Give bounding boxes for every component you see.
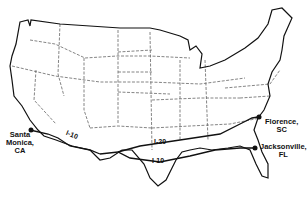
florence-marker <box>257 115 262 120</box>
jacksonville-marker <box>253 146 258 151</box>
route-label-i10-south: I-10 <box>152 157 164 164</box>
city-label-line: SC <box>265 126 298 134</box>
city-label-line: CA <box>6 147 34 155</box>
city-label-jacksonville: Jacksonville, FL <box>260 143 307 159</box>
route-label-i20: I-20 <box>154 138 166 145</box>
city-label-santa-monica: Santa Monica, CA <box>6 131 34 155</box>
routes <box>30 117 258 162</box>
city-label-florence: Florence, SC <box>265 118 298 134</box>
state-borders <box>12 24 280 150</box>
us-map <box>0 0 308 200</box>
city-label-line: FL <box>260 151 307 159</box>
